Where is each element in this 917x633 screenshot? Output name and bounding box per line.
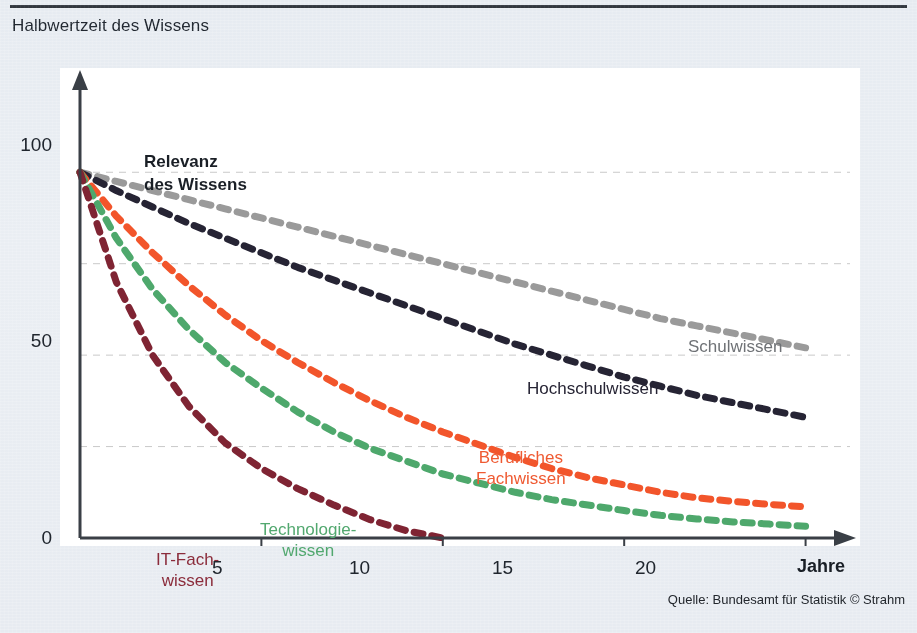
source-note: Quelle: Bundesamt für Statistik © Strahm <box>668 592 905 607</box>
gridlines <box>80 172 850 446</box>
series-label-berufliches-fachwissen: Berufliches Fachwissen <box>476 447 566 489</box>
x-tick-label-15: 15 <box>492 557 513 579</box>
x-axis-title: Jahre <box>797 556 845 577</box>
x-tick-label-5: 5 <box>212 557 223 579</box>
plot-area: Relevanz des Wissens Schulwissen Hochsch… <box>60 68 860 546</box>
page-title: Halbwertzeit des Wissens <box>12 16 209 36</box>
x-tick-label-20: 20 <box>635 557 656 579</box>
series-label-it-fachwissen: IT-Fach- wissen <box>156 549 219 591</box>
series-label-schulwissen: Schulwissen <box>688 336 783 357</box>
axis-lines <box>72 70 856 546</box>
figure-canvas: Halbwertzeit des Wissens Relevanz des Wi… <box>0 0 917 633</box>
series-label-hochschulwissen: Hochschulwissen <box>527 378 658 399</box>
chart-plot-svg <box>60 68 860 546</box>
y-axis-title: Relevanz des Wissens <box>144 150 247 196</box>
series-label-technologiewissen: Technologie- wissen <box>260 519 356 561</box>
y-tick-label-100: 100 <box>8 134 52 156</box>
y-tick-label-50: 50 <box>8 330 52 352</box>
top-rule-divider <box>10 5 907 8</box>
x-tick-label-10: 10 <box>349 557 370 579</box>
y-tick-label-0: 0 <box>8 527 52 549</box>
